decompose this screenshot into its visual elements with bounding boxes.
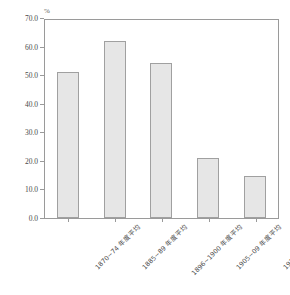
- x-tick-mark: [256, 219, 257, 222]
- bar-slot: [138, 20, 185, 218]
- x-axis-tick-label: 1914~18 年度平均: [281, 223, 290, 271]
- y-tick-label: 70.0: [25, 14, 38, 23]
- x-axis-tick-label: 1896~1900 年度平均: [190, 223, 244, 277]
- y-tick-label: 60.0: [25, 43, 38, 52]
- x-tick-mark: [162, 219, 163, 222]
- x-axis-tick-label: 1870~74 年度平均: [93, 223, 141, 271]
- plot-area: [45, 20, 278, 218]
- y-tick-label: 0.0: [29, 214, 38, 223]
- bar-slot: [231, 20, 278, 218]
- bar[interactable]: [57, 72, 79, 218]
- plot-frame: [44, 19, 279, 219]
- x-tick-mark: [115, 219, 116, 222]
- bar[interactable]: [244, 176, 266, 218]
- x-axis-labels: 1870~74 年度平均1885~89 年度平均1896~1900 年度平均19…: [44, 223, 279, 293]
- y-tick-label: 20.0: [25, 157, 38, 166]
- bar-slot: [45, 20, 92, 218]
- y-tick-label: 30.0: [25, 128, 38, 137]
- y-tick-label: 40.0: [25, 100, 38, 109]
- y-tick-label: 10.0: [25, 185, 38, 194]
- y-tick-label: 50.0: [25, 71, 38, 80]
- bar-slot: [92, 20, 139, 218]
- bar[interactable]: [197, 158, 219, 218]
- y-axis: 0.010.020.030.040.050.060.070.0: [0, 19, 44, 219]
- x-tick-mark: [68, 219, 69, 222]
- bar[interactable]: [150, 63, 172, 218]
- y-axis-unit-label: %: [44, 7, 50, 15]
- x-tick-mark: [209, 219, 210, 222]
- bar[interactable]: [104, 41, 126, 218]
- bar-chart-figure: % 0.010.020.030.040.050.060.070.0 1870~7…: [0, 0, 290, 295]
- x-axis-tick-label: 1885~89 年度平均: [140, 223, 188, 271]
- bar-slot: [185, 20, 232, 218]
